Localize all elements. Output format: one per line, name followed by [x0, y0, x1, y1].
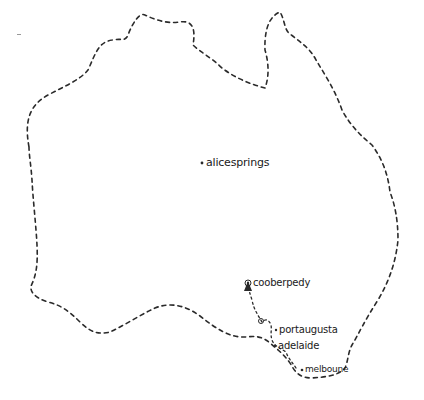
stray-mark [17, 34, 21, 35]
city-label-melbourne: melboune [305, 365, 348, 374]
coastline-outline [27, 12, 398, 378]
map-canvas [0, 0, 424, 400]
port-augusta-marker-icon [275, 329, 277, 331]
city-label-adelaide: adelaide [278, 341, 319, 351]
coober-pedy-marker-icon [247, 282, 249, 284]
city-label-port-augusta: portaugusta [279, 325, 338, 335]
city-label-coober-pedy: cooberpedy [253, 278, 310, 288]
alice-springs-marker-icon [201, 162, 204, 165]
adelaide-marker-icon [274, 345, 276, 347]
melbourne-marker-icon [301, 369, 304, 372]
city-label-alice-springs: alicesprings [206, 157, 269, 168]
